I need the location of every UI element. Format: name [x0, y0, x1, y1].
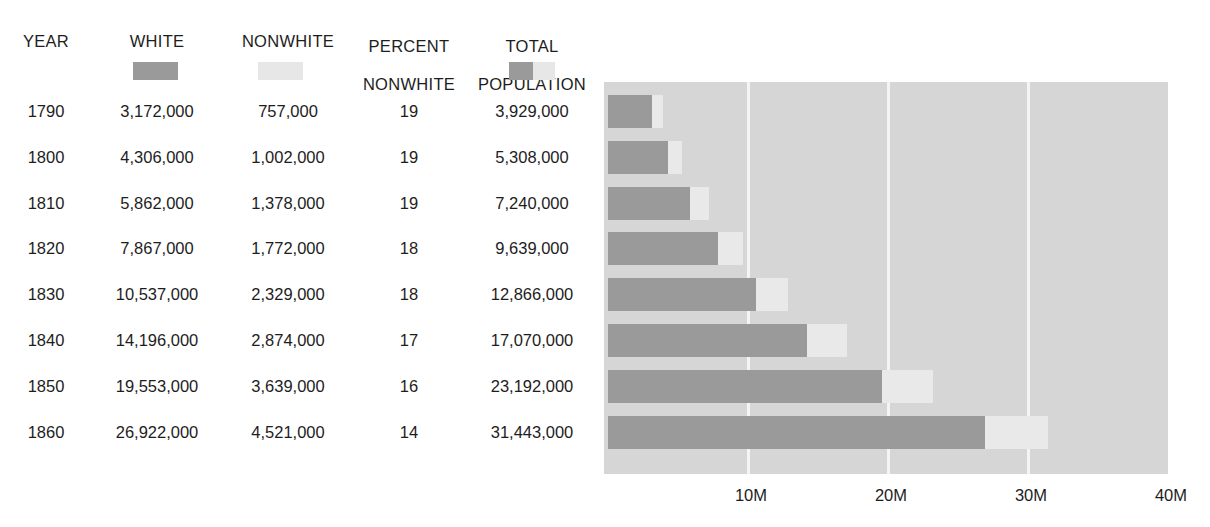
table-cell-year: 1860	[0, 417, 92, 447]
bar-segment-white	[608, 324, 807, 357]
table-cell-year: 1820	[0, 233, 92, 263]
stacked-bar-1840	[608, 324, 847, 357]
nonwhite-legend-swatch	[258, 62, 303, 80]
table-cell-white: 7,867,000	[92, 233, 222, 263]
column-header-year: YEAR	[0, 32, 92, 51]
table-cell-white: 5,862,000	[92, 188, 222, 218]
table-row: 186026,922,0004,521,0001431,443,000	[0, 417, 600, 447]
x-axis-tick-30M: 30M	[996, 484, 1066, 506]
table-cell-total-population: 31,443,000	[464, 417, 600, 447]
table-cell-year: 1830	[0, 279, 92, 309]
x-axis-tick-20M: 20M	[856, 484, 926, 506]
bar-segment-white	[608, 370, 882, 403]
x-axis-tick-40M: 40M	[1136, 484, 1206, 506]
x-axis-tick-10M: 10M	[716, 484, 786, 506]
table-cell-total-population: 7,240,000	[464, 188, 600, 218]
stacked-bar-chart-plot-area	[604, 82, 1168, 474]
table-cell-year: 1840	[0, 325, 92, 355]
table-cell-year: 1800	[0, 142, 92, 172]
table-row: 184014,196,0002,874,0001717,070,000	[0, 325, 600, 355]
total-population-legend-swatch-light	[533, 62, 555, 80]
bar-segment-nonwhite	[668, 141, 682, 174]
white-legend-swatch	[133, 62, 178, 80]
table-cell-total-population: 12,866,000	[464, 279, 600, 309]
table-row: 183010,537,0002,329,0001812,866,000	[0, 279, 600, 309]
table-cell-total-population: 9,639,000	[464, 233, 600, 263]
table-cell-year: 1810	[0, 188, 92, 218]
stacked-bar-1850	[608, 370, 933, 403]
table-cell-nonwhite: 1,378,000	[222, 188, 354, 218]
bar-segment-nonwhite	[882, 370, 933, 403]
stacked-bar-1800	[608, 141, 682, 174]
bar-segment-nonwhite	[756, 278, 789, 311]
table-cell-total-population: 23,192,000	[464, 371, 600, 401]
column-header-percent-nonwhite-line1: PERCENT	[354, 37, 464, 56]
table-row: 185019,553,0003,639,0001623,192,000	[0, 371, 600, 401]
legend-swatch-row	[0, 62, 600, 82]
stacked-bar-1790	[608, 95, 663, 128]
table-cell-percent-nonwhite: 19	[354, 188, 464, 218]
table-cell-year: 1850	[0, 371, 92, 401]
bar-segment-white	[608, 95, 652, 128]
table-cell-nonwhite: 2,329,000	[222, 279, 354, 309]
table-cell-percent-nonwhite: 19	[354, 96, 464, 126]
table-cell-total-population: 5,308,000	[464, 142, 600, 172]
column-header-total-population-line1: TOTAL	[464, 37, 600, 56]
stacked-bar-1830	[608, 278, 788, 311]
stacked-bar-1860	[608, 416, 1048, 449]
column-header-white: WHITE	[92, 32, 222, 51]
bar-segment-nonwhite	[718, 232, 743, 265]
table-cell-nonwhite: 4,521,000	[222, 417, 354, 447]
table-cell-white: 10,537,000	[92, 279, 222, 309]
table-cell-white: 19,553,000	[92, 371, 222, 401]
bar-segment-white	[608, 278, 756, 311]
table-cell-white: 14,196,000	[92, 325, 222, 355]
table-cell-percent-nonwhite: 18	[354, 233, 464, 263]
population-table-and-chart-figure: YEAR WHITE NONWHITE PERCENT NONWHITE TOT…	[0, 0, 1210, 527]
table-cell-nonwhite: 2,874,000	[222, 325, 354, 355]
bar-segment-nonwhite	[807, 324, 847, 357]
table-cell-white: 26,922,000	[92, 417, 222, 447]
table-cell-nonwhite: 1,002,000	[222, 142, 354, 172]
bar-segment-nonwhite	[985, 416, 1048, 449]
bar-segment-white	[608, 416, 985, 449]
table-cell-nonwhite: 757,000	[222, 96, 354, 126]
table-cell-percent-nonwhite: 14	[354, 417, 464, 447]
table-cell-nonwhite: 1,772,000	[222, 233, 354, 263]
table-row: 18105,862,0001,378,000197,240,000	[0, 188, 600, 218]
total-population-legend-swatch-dark	[509, 62, 533, 80]
table-row: 18004,306,0001,002,000195,308,000	[0, 142, 600, 172]
table-cell-white: 4,306,000	[92, 142, 222, 172]
table-row: 18207,867,0001,772,000189,639,000	[0, 233, 600, 263]
table-header-row: YEAR WHITE NONWHITE PERCENT NONWHITE TOT…	[0, 18, 600, 58]
bar-segment-nonwhite	[652, 95, 663, 128]
bar-segment-white	[608, 232, 718, 265]
table-cell-year: 1790	[0, 96, 92, 126]
table-cell-nonwhite: 3,639,000	[222, 371, 354, 401]
table-cell-total-population: 3,929,000	[464, 96, 600, 126]
table-cell-white: 3,172,000	[92, 96, 222, 126]
table-cell-percent-nonwhite: 18	[354, 279, 464, 309]
table-cell-percent-nonwhite: 19	[354, 142, 464, 172]
data-table: YEAR WHITE NONWHITE PERCENT NONWHITE TOT…	[0, 0, 600, 527]
table-cell-percent-nonwhite: 16	[354, 371, 464, 401]
bar-segment-nonwhite	[690, 187, 709, 220]
bar-segment-white	[608, 187, 690, 220]
stacked-bar-1810	[608, 187, 709, 220]
table-row: 17903,172,000757,000193,929,000	[0, 96, 600, 126]
stacked-bar-1820	[608, 232, 743, 265]
column-header-nonwhite: NONWHITE	[222, 32, 354, 51]
x-axis-tick-labels: 10M20M30M40M	[604, 484, 1204, 508]
bar-segment-white	[608, 141, 668, 174]
table-cell-total-population: 17,070,000	[464, 325, 600, 355]
table-cell-percent-nonwhite: 17	[354, 325, 464, 355]
